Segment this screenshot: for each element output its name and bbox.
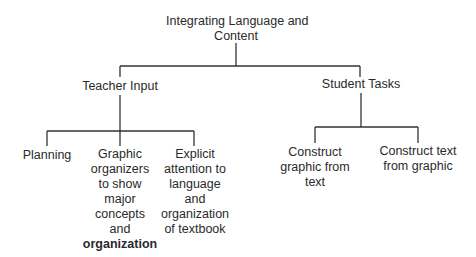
leaf-explicit-attention: Explicit attention to language and organ… — [155, 147, 235, 237]
leaf-label-line: Explicit — [155, 147, 235, 162]
leaf-label-line: from graphic — [370, 159, 466, 174]
leaf-label-line: Construct — [270, 145, 360, 160]
leaf-construct-graphic: Construct graphic from text — [270, 145, 360, 190]
branch-teacher-input: Teacher Input — [70, 79, 170, 94]
leaf-construct-text: Construct text from graphic — [370, 144, 466, 174]
leaf-label-line: concepts — [80, 207, 160, 222]
leaf-planning: Planning — [7, 148, 87, 163]
leaf-graphic-organizers: Graphic organizers to show major concept… — [80, 147, 160, 252]
leaf-label-line: language — [155, 177, 235, 192]
leaf-label-line: and — [80, 222, 160, 237]
root-node: Integrating Language and Content — [166, 14, 306, 44]
leaf-label-line: text — [270, 175, 360, 190]
root-label-line-2: Content — [166, 29, 306, 44]
leaf-label-line: and — [155, 192, 235, 207]
leaf-label-line: Planning — [7, 148, 87, 163]
root-label-line-1: Integrating Language and — [166, 14, 306, 29]
leaf-label-line: major — [80, 192, 160, 207]
leaf-label-line: to show — [80, 177, 160, 192]
branch-student-tasks: Student Tasks — [311, 77, 411, 92]
leaf-label-line: organizers — [80, 162, 160, 177]
leaf-label-line: attention to — [155, 162, 235, 177]
branch-label: Teacher Input — [70, 79, 170, 94]
leaf-label-line: of textbook — [155, 222, 235, 237]
leaf-label-line: organization — [155, 207, 235, 222]
leaf-label-line: organization — [80, 237, 160, 252]
branch-label: Student Tasks — [311, 77, 411, 92]
leaf-label-line: graphic from — [270, 160, 360, 175]
leaf-label-line: Construct text — [370, 144, 466, 159]
leaf-label-line: Graphic — [80, 147, 160, 162]
